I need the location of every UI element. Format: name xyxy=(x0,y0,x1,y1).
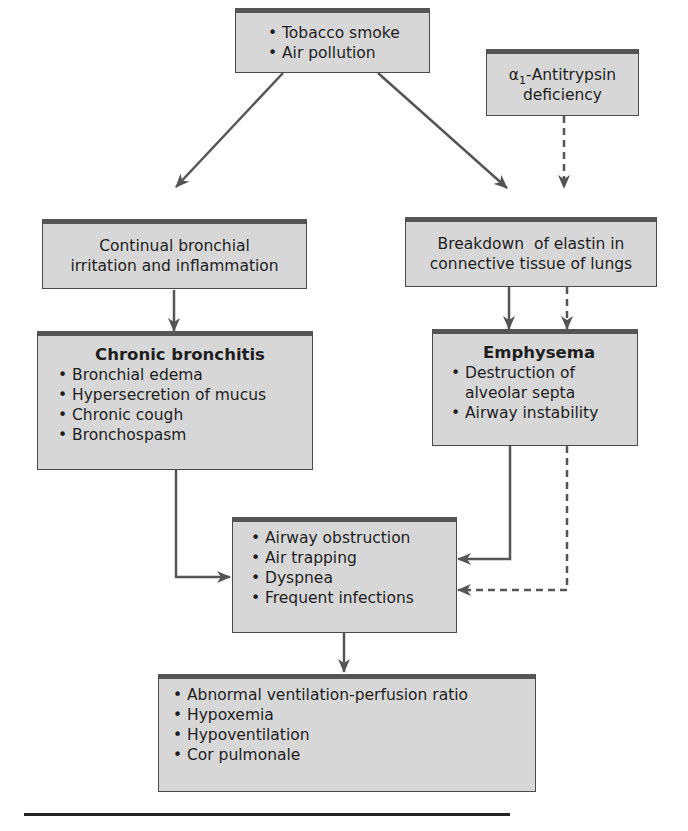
obstruction-feature: Frequent infections xyxy=(249,588,448,608)
arrow-bronchitis-to-obstruction xyxy=(176,470,230,577)
node-causes: Tobacco smoke Air pollution xyxy=(235,8,430,73)
obstruction-feature: Air trapping xyxy=(249,548,448,568)
emphysema-title: Emphysema xyxy=(449,342,629,363)
outcome-item: Cor pulmonale xyxy=(171,745,527,765)
arrow-causes-to-irritation xyxy=(176,73,283,187)
aat-line-1: α1-Antitrypsin xyxy=(495,65,630,85)
copd-pathogenesis-flowchart: Tobacco smoke Air pollution α1-Antitryps… xyxy=(0,0,688,831)
node-outcomes: Abnormal ventilation-perfusion ratio Hyp… xyxy=(158,674,536,792)
chronic-bronchitis-title: Chronic bronchitis xyxy=(56,344,304,365)
node-airway-obstruction: Airway obstruction Air trapping Dyspnea … xyxy=(232,517,457,633)
node-chronic-bronchitis: Chronic bronchitis Bronchial edema Hyper… xyxy=(37,331,313,470)
emphysema-feature: Destruction of alveolar septa xyxy=(449,363,585,403)
node-emphysema: Emphysema Destruction of alveolar septa … xyxy=(432,329,638,446)
obstruction-feature: Airway obstruction xyxy=(249,528,448,548)
obstruction-list: Airway obstruction Air trapping Dyspnea … xyxy=(249,528,448,608)
emphysema-feature: Airway instability xyxy=(449,403,629,423)
bronchitis-feature: Hypersecretion of mucus xyxy=(56,385,304,405)
aat-line-2: deficiency xyxy=(495,85,630,105)
outcomes-list: Abnormal ventilation-perfusion ratio Hyp… xyxy=(171,685,527,765)
cause-item: Tobacco smoke xyxy=(266,23,421,43)
outcome-item: Abnormal ventilation-perfusion ratio xyxy=(171,685,527,705)
outcome-item: Hypoventilation xyxy=(171,725,527,745)
emphysema-list: Destruction of alveolar septa Airway ins… xyxy=(449,363,629,423)
outcome-item: Hypoxemia xyxy=(171,705,527,725)
irritation-line-1: Continual bronchial xyxy=(51,236,298,256)
cause-item: Air pollution xyxy=(266,43,421,63)
bronchitis-feature: Bronchospasm xyxy=(56,425,304,445)
alpha-symbol: α xyxy=(509,66,519,84)
bronchitis-feature: Bronchial edema xyxy=(56,365,304,385)
bronchitis-feature: Chronic cough xyxy=(56,405,304,425)
obstruction-feature: Dyspnea xyxy=(249,568,448,588)
irritation-line-2: irritation and inflammation xyxy=(51,256,298,276)
node-alpha1-antitrypsin-deficiency: α1-Antitrypsin deficiency xyxy=(486,49,639,116)
elastin-line-1: Breakdown of elastin in xyxy=(414,234,648,254)
chronic-bronchitis-list: Bronchial edema Hypersecretion of mucus … xyxy=(56,365,304,445)
causes-list: Tobacco smoke Air pollution xyxy=(266,23,421,63)
aat-label: -Antitrypsin xyxy=(526,66,616,84)
dashed-arrow-emphysema-to-obstruction xyxy=(458,446,567,590)
footer-rule xyxy=(24,813,510,816)
node-elastin-breakdown: Breakdown of elastin in connective tissu… xyxy=(405,217,657,287)
arrow-emphysema-to-obstruction xyxy=(458,446,510,559)
elastin-line-2: connective tissue of lungs xyxy=(414,254,648,274)
node-bronchial-irritation: Continual bronchial irritation and infla… xyxy=(42,219,307,289)
